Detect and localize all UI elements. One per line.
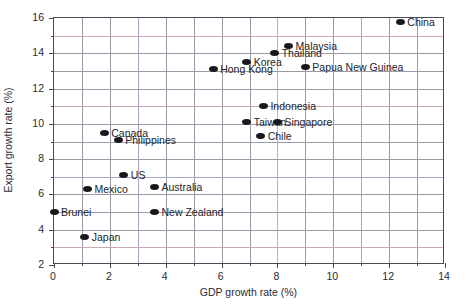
x-axis-tick — [110, 263, 111, 268]
x-axis-tick — [166, 263, 167, 268]
gridline-horizontal — [54, 212, 443, 213]
y-axis-tick — [51, 142, 54, 143]
gridline-vertical — [110, 18, 111, 263]
y-axis-tick-label: 8 — [38, 152, 44, 164]
y-axis-tick — [49, 159, 54, 160]
x-axis-tick-label: 2 — [106, 270, 112, 282]
scatter-plot-figure: ChinaMalaysiaThailandKoreaPapua New Guin… — [0, 0, 473, 305]
data-point-label: Japan — [92, 231, 121, 243]
x-axis-tick — [82, 263, 83, 266]
data-point[interactable] — [256, 133, 265, 139]
y-axis-tick — [51, 177, 54, 178]
data-point-label: US — [131, 169, 146, 181]
x-axis-tick-label: 12 — [382, 270, 394, 282]
y-axis-tick — [49, 124, 54, 125]
data-point[interactable] — [301, 64, 310, 70]
gridline-vertical — [82, 18, 83, 263]
data-point-label: Singapore — [284, 116, 332, 128]
x-axis-tick-label: 14 — [438, 270, 450, 282]
x-axis-tick-label: 4 — [162, 270, 168, 282]
x-axis-tick-label: 8 — [274, 270, 280, 282]
x-axis-tick — [305, 263, 306, 266]
data-point-label: Australia — [162, 181, 203, 193]
gridline-vertical — [333, 18, 334, 263]
data-point-label: Hong Kong — [220, 63, 273, 75]
gridline-horizontal — [54, 142, 443, 143]
data-point-label: Indonesia — [270, 100, 316, 112]
data-point-label: Philippines — [125, 134, 176, 146]
gridline-vertical — [222, 18, 223, 263]
x-axis-tick — [361, 263, 362, 266]
data-point[interactable] — [150, 209, 159, 215]
data-point-label: Thailand — [282, 47, 322, 59]
y-axis-tick — [51, 106, 54, 107]
x-axis-tick — [194, 263, 195, 266]
y-axis-tick-label: 16 — [32, 11, 44, 23]
data-point[interactable] — [114, 137, 123, 143]
gridline-horizontal — [54, 53, 443, 54]
x-axis-tick — [445, 263, 446, 268]
data-point-label: China — [407, 16, 434, 28]
data-point[interactable] — [209, 66, 218, 72]
y-axis-title: Export growth rate (%) — [2, 87, 14, 192]
data-point-label: Mexico — [95, 183, 128, 195]
gridline-horizontal — [54, 177, 443, 178]
x-axis-tick-label: 6 — [218, 270, 224, 282]
y-axis-tick — [49, 265, 54, 266]
gridline-horizontal — [54, 159, 443, 160]
y-axis-tick-label: 10 — [32, 117, 44, 129]
data-point-label: Brunei — [61, 206, 91, 218]
y-axis-tick — [49, 194, 54, 195]
gridline-vertical — [250, 18, 251, 263]
y-axis-tick-label: 2 — [38, 258, 44, 270]
x-axis-tick — [54, 263, 55, 268]
data-point[interactable] — [80, 234, 89, 240]
gridline-vertical — [361, 18, 362, 263]
data-point[interactable] — [273, 119, 282, 125]
data-point-label: Chile — [268, 130, 292, 142]
data-point-label: Papua New Guinea — [312, 61, 403, 73]
x-axis-tick-label: 10 — [326, 270, 338, 282]
gridline-horizontal — [54, 247, 443, 248]
x-axis-tick — [333, 263, 334, 268]
x-axis-tick — [138, 263, 139, 266]
data-point[interactable] — [396, 19, 405, 25]
x-axis-tick — [222, 263, 223, 268]
x-axis-tick — [389, 263, 390, 268]
gridline-vertical — [389, 18, 390, 263]
y-axis-tick-label: 14 — [32, 46, 44, 58]
y-axis-tick-label: 4 — [38, 223, 44, 235]
x-axis-title: GDP growth rate (%) — [53, 286, 444, 298]
y-axis-tick-label: 12 — [32, 82, 44, 94]
x-axis-tick — [250, 263, 251, 266]
data-point[interactable] — [50, 209, 59, 215]
x-axis-tick — [277, 263, 278, 268]
y-axis-tick — [51, 36, 54, 37]
y-axis-tick — [49, 53, 54, 54]
x-axis-tick-label: 0 — [50, 270, 56, 282]
gridline-horizontal — [54, 89, 443, 90]
y-axis-tick — [49, 89, 54, 90]
data-point[interactable] — [100, 130, 109, 136]
y-axis-tick — [51, 247, 54, 248]
gridline-horizontal — [54, 36, 443, 37]
plot-area: ChinaMalaysiaThailandKoreaPapua New Guin… — [53, 17, 444, 264]
data-point-label: New Zealand — [162, 206, 224, 218]
gridline-vertical — [417, 18, 418, 263]
data-point[interactable] — [150, 184, 159, 190]
gridline-horizontal — [54, 106, 443, 107]
gridline-vertical — [194, 18, 195, 263]
y-axis-tick — [51, 71, 54, 72]
data-point[interactable] — [83, 186, 92, 192]
y-axis-tick — [49, 18, 54, 19]
x-axis-tick — [417, 263, 418, 266]
data-point[interactable] — [259, 103, 268, 109]
y-axis-tick-label: 6 — [38, 187, 44, 199]
y-axis-tick — [49, 230, 54, 231]
